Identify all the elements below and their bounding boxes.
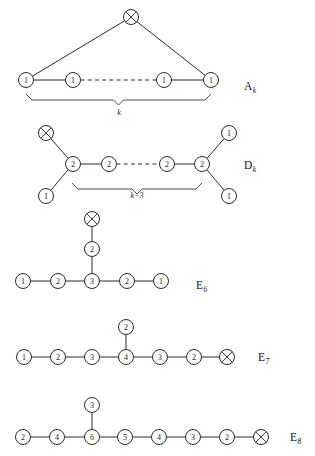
node-label: 1 bbox=[24, 76, 28, 85]
crossed-node[interactable] bbox=[39, 126, 54, 141]
node-label: 2 bbox=[125, 277, 129, 286]
node[interactable]: 2 bbox=[119, 320, 134, 335]
node[interactable]: 2 bbox=[51, 274, 66, 289]
node-label: 1 bbox=[159, 277, 163, 286]
node[interactable]: 2 bbox=[160, 157, 175, 172]
node-label: 2 bbox=[90, 245, 94, 254]
node[interactable]: 4 bbox=[152, 430, 167, 445]
node-label: 2 bbox=[225, 433, 229, 442]
brace-label: k−3 bbox=[131, 191, 144, 200]
node[interactable]: 3 bbox=[186, 430, 201, 445]
node[interactable]: 2 bbox=[85, 242, 100, 257]
edge-a-top-to-a-4 bbox=[137, 22, 205, 76]
node[interactable]: 6 bbox=[85, 430, 100, 445]
diagram-label-subscript: k bbox=[253, 86, 257, 95]
node[interactable]: 1 bbox=[19, 73, 34, 88]
node-label: 2 bbox=[56, 277, 60, 286]
diagram-D: 1222211k−3Dk bbox=[39, 126, 257, 204]
node[interactable]: 5 bbox=[118, 430, 133, 445]
crossed-node[interactable] bbox=[124, 10, 139, 25]
node-label: 2 bbox=[165, 160, 169, 169]
crossed-node[interactable] bbox=[85, 212, 100, 227]
node[interactable]: 2 bbox=[16, 430, 31, 445]
node[interactable]: 1 bbox=[17, 350, 32, 365]
node[interactable]: 1 bbox=[157, 73, 172, 88]
node[interactable]: 4 bbox=[50, 430, 65, 445]
diagram-label-subscript: k bbox=[253, 165, 257, 174]
node-label: 2 bbox=[107, 160, 111, 169]
node-label: 2 bbox=[56, 353, 60, 362]
node[interactable]: 3 bbox=[85, 274, 100, 289]
diagram-E6: 212321E6 bbox=[16, 212, 208, 295]
node-label: 6 bbox=[90, 433, 94, 442]
diagram-label-subscript: 7 bbox=[266, 357, 270, 366]
node-label: 2 bbox=[200, 160, 204, 169]
node-label: 1 bbox=[209, 76, 213, 85]
node-label: 2 bbox=[124, 323, 128, 332]
edge-d-bl-to-d-c1 bbox=[51, 170, 68, 191]
edge-a-top-to-a-1 bbox=[32, 21, 124, 76]
diagram-E8: 32465432E8 bbox=[16, 398, 302, 447]
node-label: 3 bbox=[90, 277, 94, 286]
node-label: 3 bbox=[90, 353, 94, 362]
node-label: 1 bbox=[71, 76, 75, 85]
diagram-label: Dk bbox=[244, 159, 257, 174]
node-label: 2 bbox=[192, 353, 196, 362]
node[interactable]: 1 bbox=[16, 274, 31, 289]
node-label: 4 bbox=[55, 433, 59, 442]
brace-label: k bbox=[117, 108, 121, 117]
node-label: 2 bbox=[71, 160, 75, 169]
node[interactable]: 1 bbox=[39, 189, 54, 204]
node-label: 3 bbox=[90, 401, 94, 410]
node[interactable]: 1 bbox=[204, 73, 219, 88]
node[interactable]: 2 bbox=[195, 157, 210, 172]
node-label: 4 bbox=[124, 353, 128, 362]
node[interactable]: 3 bbox=[85, 398, 100, 413]
node[interactable]: 3 bbox=[85, 350, 100, 365]
underbrace bbox=[26, 94, 211, 105]
node[interactable]: 2 bbox=[220, 430, 235, 445]
node-label: 1 bbox=[162, 76, 166, 85]
edge-group bbox=[32, 21, 205, 80]
node[interactable]: 2 bbox=[51, 350, 66, 365]
node[interactable]: 1 bbox=[222, 126, 237, 141]
edge-d-c4-to-d-br bbox=[207, 170, 224, 191]
node-label: 2 bbox=[21, 433, 25, 442]
node[interactable]: 2 bbox=[66, 157, 81, 172]
node-label: 4 bbox=[157, 433, 161, 442]
node-label: 1 bbox=[227, 192, 231, 201]
dynkin-diagram-figure: 1111kAk1222211k−3Dk212321E62123432E73246… bbox=[0, 0, 315, 456]
crossed-node[interactable] bbox=[220, 350, 235, 365]
diagram-E7: 2123432E7 bbox=[17, 320, 270, 367]
diagram-label-subscript: 6 bbox=[204, 285, 208, 294]
node[interactable]: 1 bbox=[154, 274, 169, 289]
node[interactable]: 3 bbox=[153, 350, 168, 365]
node[interactable]: 1 bbox=[66, 73, 81, 88]
node[interactable]: 2 bbox=[102, 157, 117, 172]
diagram-label-subscript: 8 bbox=[298, 437, 302, 446]
diagram-label: Ak bbox=[244, 80, 257, 95]
node[interactable]: 1 bbox=[222, 189, 237, 204]
diagram-label: E8 bbox=[290, 431, 302, 446]
node-label: 3 bbox=[191, 433, 195, 442]
node[interactable]: 2 bbox=[187, 350, 202, 365]
node-label: 1 bbox=[44, 192, 48, 201]
node-label: 5 bbox=[123, 433, 127, 442]
diagram-label: E7 bbox=[258, 351, 270, 366]
diagram-A: 1111kAk bbox=[19, 10, 257, 118]
node-label: 3 bbox=[158, 353, 162, 362]
node-label: 1 bbox=[22, 353, 26, 362]
diagram-label: E6 bbox=[196, 279, 208, 294]
node[interactable]: 4 bbox=[119, 350, 134, 365]
edge-d-c4-to-d-tr bbox=[207, 139, 224, 159]
node-label: 1 bbox=[21, 277, 25, 286]
node[interactable]: 2 bbox=[120, 274, 135, 289]
node-label: 1 bbox=[227, 129, 231, 138]
crossed-node[interactable] bbox=[254, 430, 269, 445]
edge-d-x-to-d-c1 bbox=[51, 139, 68, 159]
